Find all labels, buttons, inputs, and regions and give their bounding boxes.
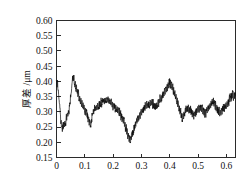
y-tick-label: 0.55 [36, 31, 53, 41]
line-chart: 0.150.200.250.300.350.400.450.500.550.60… [0, 0, 248, 180]
x-tick-labels: 00.10.20.30.40.50.6 [54, 161, 232, 171]
y-tick-label: 0.25 [36, 122, 53, 132]
data-line-thickness-deviation [57, 75, 236, 143]
x-tick-label: 0.4 [164, 161, 176, 171]
y-tick-marks [57, 21, 61, 158]
y-tick-label: 0.60 [36, 16, 53, 26]
data-series-group [57, 75, 236, 143]
y-tick-label: 0.20 [36, 138, 53, 148]
y-tick-label: 0.50 [36, 46, 53, 56]
y-tick-label: 0.35 [36, 92, 53, 102]
y-tick-label: 0.45 [36, 62, 53, 72]
y-axis-title: 厚差 /μm [21, 70, 32, 108]
y-tick-label: 0.30 [36, 107, 53, 117]
chart-figure: 0.150.200.250.300.350.400.450.500.550.60… [0, 0, 248, 180]
x-tick-label: 0.3 [136, 161, 148, 171]
x-tick-label: 0.1 [79, 161, 91, 171]
x-tick-marks [57, 154, 227, 158]
y-tick-labels: 0.150.200.250.300.350.400.450.500.550.60 [36, 16, 53, 163]
x-tick-label: 0.6 [220, 161, 232, 171]
x-tick-label: 0 [54, 161, 59, 171]
x-tick-label: 0.5 [192, 161, 204, 171]
plot-frame [57, 21, 236, 158]
chart-axes [57, 21, 236, 158]
y-tick-label: 0.40 [36, 77, 53, 87]
y-tick-label: 0.15 [36, 153, 53, 163]
x-tick-label: 0.2 [107, 161, 119, 171]
